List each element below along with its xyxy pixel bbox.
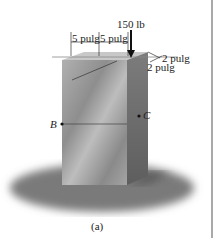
figure-caption: (a)	[91, 221, 103, 232]
post-front-face	[62, 60, 127, 185]
dim-top-left: 5 pulg	[72, 33, 100, 44]
point-c-label: C	[143, 110, 150, 121]
load-label: 150 lb	[117, 19, 145, 30]
point-b-label: B	[50, 119, 57, 130]
point-b-marker	[60, 122, 63, 125]
point-c-marker	[137, 114, 140, 117]
dim-top-right: 5 pulg	[100, 33, 128, 44]
dim-right-lower: 2 pulg	[147, 62, 175, 73]
